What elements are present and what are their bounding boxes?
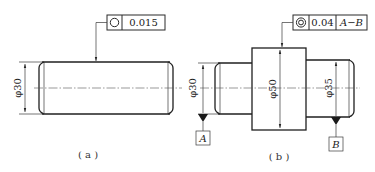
caption-a: ( a ) <box>78 149 98 160</box>
leader-line-b <box>282 23 293 48</box>
tolerance-frame-a: 0.015 <box>107 15 165 30</box>
diameter-label-b-left: φ30 <box>187 78 198 98</box>
technical-drawing: 0.015 φ30 ( a ) <box>0 0 375 172</box>
datum-b: B <box>329 117 343 151</box>
leader-line-a <box>96 23 107 62</box>
datum-a: A <box>196 114 210 145</box>
figure-b: 0.04 A−B φ30 <box>187 15 367 162</box>
tolerance-value-a: 0.015 <box>129 17 158 28</box>
dimension-b-left: φ30 <box>187 63 218 114</box>
diameter-label-b-right: φ35 <box>323 78 334 98</box>
dimension-b-middle: φ50 <box>267 50 280 128</box>
tolerance-value-b: 0.04 <box>311 17 333 28</box>
datum-label-a: A <box>198 133 206 144</box>
datum-reference-b: A−B <box>339 17 363 28</box>
datum-label-b: B <box>331 139 339 150</box>
dimension-b-right: φ35 <box>323 62 336 116</box>
tolerance-frame-b: 0.04 A−B <box>293 15 367 30</box>
circularity-icon <box>110 18 118 26</box>
figure-a: 0.015 φ30 ( a ) <box>12 15 182 160</box>
diameter-label-a: φ30 <box>12 78 23 98</box>
shaft-middle-section <box>252 48 306 130</box>
concentricity-icon <box>296 18 305 27</box>
datum-triangle-icon <box>198 114 208 122</box>
datum-triangle-icon <box>331 117 341 125</box>
diameter-label-b-middle: φ50 <box>267 79 278 99</box>
caption-b: ( b ) <box>269 151 290 162</box>
